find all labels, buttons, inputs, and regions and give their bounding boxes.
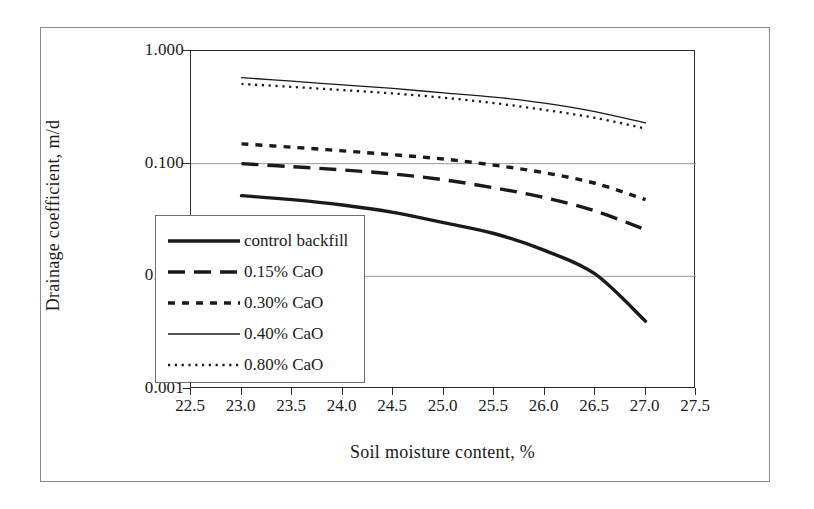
legend-item-label: 0.15% CaO <box>244 263 323 280</box>
legend-item: control backfill <box>156 225 364 256</box>
x-axis-tick-mark <box>493 388 494 395</box>
x-axis-title: Soil moisture content, % <box>190 442 695 463</box>
x-axis-tick-mark <box>342 388 343 395</box>
series-line-0-40-cao <box>242 78 646 123</box>
x-axis-tick-mark <box>443 388 444 395</box>
legend-item: 0.80% CaO <box>156 349 364 380</box>
y-axis-tick-label: 1.000 <box>122 41 184 58</box>
legend-item-label: 0.30% CaO <box>244 294 323 311</box>
legend-swatch-solid-thin-icon <box>167 327 241 341</box>
legend-item-label: 0.40% CaO <box>244 325 323 342</box>
y-axis-title: Drainage coefficient, m/d <box>43 51 64 381</box>
x-axis-tick-mark <box>695 388 696 395</box>
legend-item-label: control backfill <box>244 232 348 249</box>
x-axis-tick-mark <box>190 388 191 395</box>
x-axis-tick-mark <box>594 388 595 395</box>
x-axis-tick-label: 27.5 <box>665 396 725 416</box>
figure-chart-drainage-coefficient: 1.0000.1000.0100.001 22.523.023.524.024.… <box>0 0 814 509</box>
series-line-0-30-cao <box>242 144 646 200</box>
x-axis-tick-mark <box>291 388 292 395</box>
legend-swatch-dotted-icon <box>167 358 241 372</box>
legend-swatch-dashed-short-icon <box>167 296 241 310</box>
x-axis-tick-mark <box>544 388 545 395</box>
legend-item: 0.40% CaO <box>156 318 364 349</box>
x-axis-tick-mark <box>241 388 242 395</box>
x-axis-tick-labels: 22.523.023.524.024.525.025.526.026.527.0… <box>190 396 695 420</box>
legend-item: 0.15% CaO <box>156 256 364 287</box>
legend-item: 0.30% CaO <box>156 287 364 318</box>
legend-swatch-solid-thick-icon <box>167 234 241 248</box>
series-line-0-80-cao <box>242 84 646 129</box>
chart-legend: control backfill0.15% CaO0.30% CaO0.40% … <box>155 215 365 383</box>
x-axis-tick-mark <box>645 388 646 395</box>
y-axis-tick-label: 0.100 <box>122 154 184 171</box>
legend-swatch-dashed-long-icon <box>167 265 241 279</box>
x-axis-tick-mark <box>392 388 393 395</box>
legend-item-label: 0.80% CaO <box>244 356 323 373</box>
